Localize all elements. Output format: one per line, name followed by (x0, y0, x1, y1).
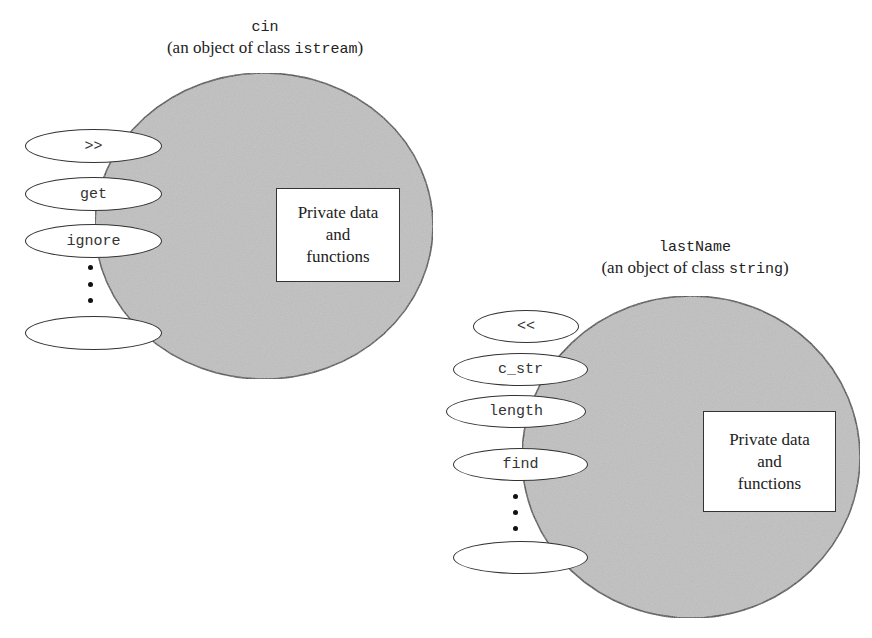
lastname-class-name: string (729, 261, 783, 278)
cin-method-blank (25, 316, 162, 350)
cin-private-data-box: Private data and functions (276, 188, 400, 282)
lastname-method-blank (453, 541, 588, 574)
cin-ellipsis-dot (88, 282, 93, 287)
lastname-ellipsis-dot (513, 510, 518, 515)
lastname-method-length: length (446, 395, 586, 428)
cin-caption: cin (an object of class istream) (130, 18, 400, 60)
lastname-ellipsis-dot (513, 526, 518, 531)
cin-ellipsis-dot (88, 265, 93, 270)
cin-method-ignore: ignore (25, 224, 162, 258)
lastname-private-data-box: Private data and functions (703, 411, 836, 512)
lastname-method-find: find (453, 448, 588, 481)
lastname-object-class-line: (an object of class string) (575, 258, 815, 280)
cin-object-name: cin (130, 18, 400, 38)
lastname-ellipsis-dot (513, 494, 518, 499)
cin-method-get: get (25, 177, 162, 211)
cin-ellipsis-dot (88, 298, 93, 303)
lastname-method-c-str: c_str (453, 353, 588, 386)
cin-class-name: istream (294, 41, 357, 58)
lastname-object-name: lastName (575, 238, 815, 258)
lastname-method-insert-operator: << (473, 310, 579, 343)
cin-object-class-line: (an object of class istream) (130, 38, 400, 60)
cin-method-extract-operator: >> (25, 129, 162, 163)
lastname-caption: lastName (an object of class string) (575, 238, 815, 280)
